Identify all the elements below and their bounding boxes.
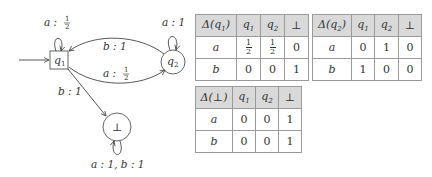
svg-text:2: 2 (65, 23, 69, 31)
table-row: b 0 0 1 (196, 131, 302, 153)
cell-value: 0 (261, 59, 285, 81)
state-bot[interactable]: ⊥ (103, 113, 131, 141)
state-q1-label: q (54, 54, 61, 67)
edge-label-q1-to-q2: a : 1 2 (103, 66, 129, 82)
table-header-title: Δ(⊥) (196, 87, 233, 109)
cell-value: 0 (233, 109, 256, 131)
edge-q1-to-q2 (69, 67, 165, 83)
cell-value: 0 (399, 59, 422, 81)
col-header-bot: ⊥ (399, 15, 422, 37)
edge-bot-self-loop (113, 141, 121, 155)
table-header-title: Δ(q2) (313, 15, 352, 37)
col-header-q1: q1 (352, 15, 375, 37)
cell-value: 1 (352, 59, 375, 81)
state-q1[interactable]: q1 (50, 51, 68, 69)
row-symbol: b (196, 59, 237, 81)
cell-value: 12 (261, 37, 285, 59)
table-row: a 0 1 0 (313, 37, 422, 59)
cell-value: 12 (237, 37, 261, 59)
cell-value: 1 (375, 37, 399, 59)
cell-value: 0 (256, 131, 279, 153)
col-header-bot: ⊥ (285, 15, 309, 37)
cell-value: 0 (233, 131, 256, 153)
svg-text:1: 1 (65, 15, 69, 23)
col-header-q2: q2 (375, 15, 399, 37)
col-header-bot: ⊥ (279, 87, 302, 109)
table-delta-q1: Δ(q1) q1 q2 ⊥ a 12 12 0 b 0 0 1 (195, 14, 309, 81)
table-row: b 1 0 0 (313, 59, 422, 81)
cell-value: 0 (256, 109, 279, 131)
cell-value: 0 (399, 37, 422, 59)
table-delta-bot: Δ(⊥) q1 q2 ⊥ a 0 0 1 b 0 0 1 (195, 86, 302, 153)
edge-q1-self-loop (55, 38, 62, 51)
col-header-q2: q2 (256, 87, 279, 109)
cell-value: 0 (352, 37, 375, 59)
table-row: a 0 0 1 (196, 109, 302, 131)
row-symbol: b (313, 59, 352, 81)
row-symbol: a (196, 37, 237, 59)
col-header-q1: q1 (233, 87, 256, 109)
table-row: a 12 12 0 (196, 37, 309, 59)
col-header-q1: q1 (237, 15, 261, 37)
svg-text:a :: a : (103, 67, 116, 79)
table-row: b 0 0 1 (196, 59, 309, 81)
edge-label-q2-to-q1: b : 1 (103, 40, 127, 52)
edge-label-q2-self: a : 1 (162, 16, 185, 28)
cell-value: 1 (279, 109, 302, 131)
automaton-diagram: q1 a : 1 2 q2 a : 1 b : 1 a : 1 2 b : 1 … (0, 0, 200, 177)
table-delta-q2: Δ(q2) q1 q2 ⊥ a 0 1 0 b 1 0 0 (312, 14, 422, 81)
svg-text:1: 1 (124, 66, 128, 74)
svg-text:2: 2 (124, 74, 128, 82)
edge-label-bot-self: a : 1, b : 1 (91, 158, 144, 170)
cell-value: 1 (285, 59, 309, 81)
col-header-q2: q2 (261, 15, 285, 37)
cell-value: 0 (285, 37, 309, 59)
edge-label-q1-self: a : 1 2 (44, 15, 70, 31)
cell-value: 0 (375, 59, 399, 81)
edge-q2-self-loop (168, 37, 177, 51)
svg-text:⊥: ⊥ (112, 121, 122, 134)
row-symbol: b (196, 131, 233, 153)
cell-value: 0 (237, 59, 261, 81)
svg-text:a :: a : (44, 16, 57, 28)
cell-value: 1 (279, 131, 302, 153)
row-symbol: a (196, 109, 233, 131)
edge-label-q1-to-bot: b : 1 (58, 85, 82, 97)
table-header-title: Δ(q1) (196, 15, 237, 37)
row-symbol: a (313, 37, 352, 59)
